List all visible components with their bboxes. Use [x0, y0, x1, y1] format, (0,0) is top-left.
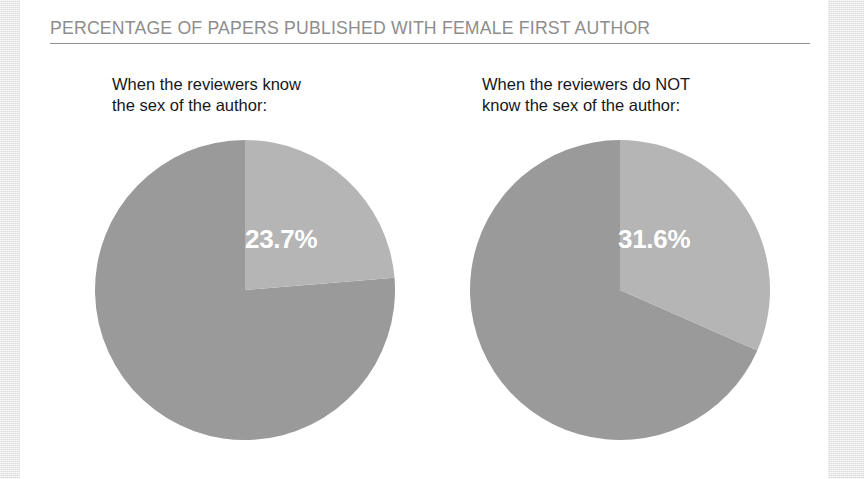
pie-chart-reviewers-do-not-know: 31.6%: [470, 140, 770, 440]
pie-value-label-left: 23.7%: [245, 224, 317, 255]
pie-value-label-right: 31.6%: [618, 224, 690, 255]
title-divider: [50, 43, 810, 44]
pie-slice-highlight-left: [245, 140, 395, 290]
pie-chart-left-svg: [95, 140, 395, 440]
chart-caption-left: When the reviewers know the sex of the a…: [112, 74, 301, 116]
chart-caption-right: When the reviewers do NOT know the sex o…: [482, 74, 690, 116]
figure-panel: PERCENTAGE OF PAPERS PUBLISHED WITH FEMA…: [20, 0, 828, 479]
pie-chart-reviewers-know: 23.7%: [95, 140, 395, 440]
page-title: PERCENTAGE OF PAPERS PUBLISHED WITH FEMA…: [50, 17, 650, 39]
pie-chart-right-svg: [470, 140, 770, 440]
